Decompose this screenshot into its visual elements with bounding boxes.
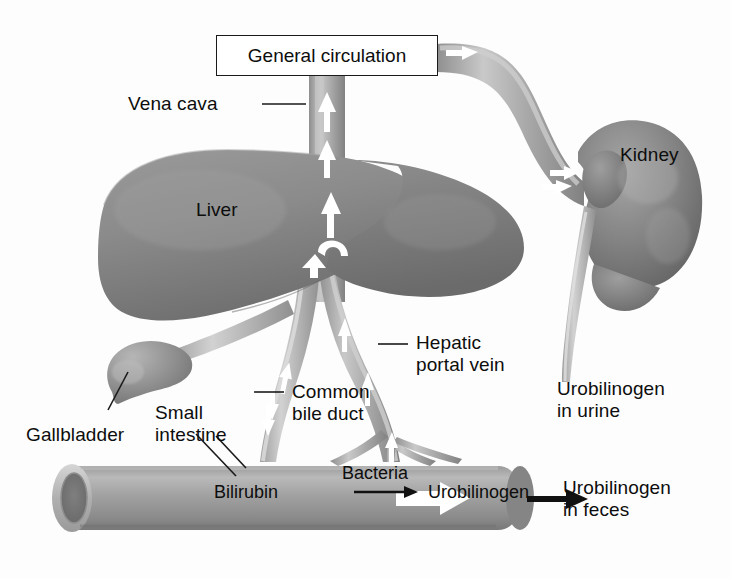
label-liver: Liver (196, 199, 238, 220)
general-circulation-box: General circulation (216, 35, 438, 76)
label-hepatic-portal-vein-line1: Hepatic (416, 332, 481, 354)
label-common-bile-duct-line1: Common (292, 381, 370, 403)
label-gallbladder: Gallbladder (26, 424, 124, 445)
figure-canvas: General circulation Vena cava Liver Kidn… (0, 0, 731, 579)
label-kidney: Kidney (620, 144, 679, 165)
label-small-intestine-line2: intestine (155, 424, 227, 446)
label-urobilinogen-urine-line1: Urobilinogen (557, 378, 665, 400)
label-vena-cava: Vena cava (128, 93, 218, 114)
label-bacteria: Bacteria (342, 463, 408, 484)
label-urobilinogen-feces-line1: Urobilinogen (563, 477, 671, 499)
label-urobilinogen-urine-line2: in urine (557, 400, 620, 422)
label-urobilinogen: Urobilinogen (428, 482, 529, 503)
gallbladder-organ (107, 341, 192, 404)
label-common-bile-duct-line2: bile duct (292, 403, 364, 425)
label-small-intestine-line1: Small (155, 402, 203, 424)
general-circulation-label: General circulation (248, 45, 406, 67)
label-urobilinogen-feces-line2: in feces (563, 499, 629, 521)
label-bilirubin: Bilirubin (214, 482, 278, 503)
label-hepatic-portal-vein-line2: portal vein (416, 354, 505, 376)
